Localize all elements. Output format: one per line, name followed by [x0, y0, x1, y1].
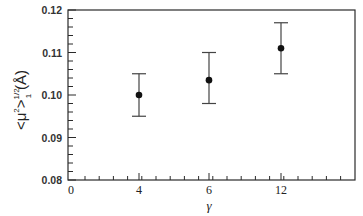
y-axis-ticks: 0.080.090.100.110.12 [42, 4, 76, 186]
chart: 0.080.090.100.110.12 04612 γ <μ2>1/21(Å) [0, 0, 363, 216]
x-tick-label: 4 [136, 183, 142, 197]
data-marker [136, 92, 143, 99]
y-tick-label: 0.09 [42, 132, 63, 144]
x-axis-ticks: 04612 [68, 173, 341, 197]
svg-text:<μ2>1/21(Å): <μ2>1/21(Å) [12, 70, 33, 130]
y-tick-label: 0.12 [42, 4, 63, 16]
y-tick-label: 0.11 [42, 47, 62, 59]
y-tick-label: 0.10 [42, 89, 63, 101]
data-marker [206, 77, 213, 84]
plot-border [68, 10, 355, 180]
y-axis-title: <μ2>1/21(Å) [12, 70, 33, 130]
x-tick-label: 0 [68, 183, 74, 197]
plot-frame [68, 10, 355, 180]
x-tick-label: 6 [206, 183, 212, 197]
x-tick-label: 12 [275, 183, 287, 197]
y-tick-label: 0.08 [42, 174, 63, 186]
data-points [132, 23, 288, 117]
data-point-group [132, 74, 146, 117]
data-point-group [202, 53, 216, 104]
data-point-group [274, 23, 288, 74]
data-marker [278, 45, 285, 52]
x-axis-title: γ [206, 198, 212, 213]
